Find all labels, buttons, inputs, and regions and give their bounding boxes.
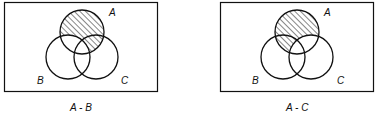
label-c: C [121, 75, 129, 86]
label-b: B [37, 75, 44, 86]
shaded-region-a-minus-c [270, 5, 330, 60]
caption: A - C [285, 102, 309, 113]
venn-diagrams-canvas: A B C A - B A B C A - C [0, 0, 377, 115]
label-a: A [323, 7, 331, 18]
venn-diagram-a-minus-c: A B C A - C [221, 3, 374, 114]
label-a: A [108, 7, 116, 18]
venn-diagram-a-minus-b: A B C A - B [5, 3, 158, 114]
label-b: B [252, 75, 259, 86]
label-c: C [337, 75, 345, 86]
caption: A - B [69, 102, 92, 113]
shaded-region-a-minus-b [55, 5, 115, 60]
